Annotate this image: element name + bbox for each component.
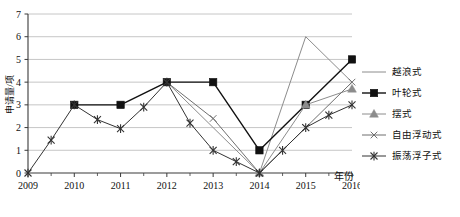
y-axis-title: 申请量/项: [3, 65, 16, 125]
legend-marker-triangle-icon: [361, 107, 387, 121]
x-tick-label: 2011: [111, 180, 131, 191]
y-tick-label: 0: [16, 168, 21, 179]
data-point-marker: [256, 147, 263, 154]
axes: [25, 14, 353, 177]
legend-marker-none-icon: [361, 65, 387, 79]
chart-figure: 01234567 2009201020112012201320142015201…: [0, 0, 460, 217]
x-tick-label: 2012: [157, 180, 177, 191]
data-point-marker: [233, 157, 240, 166]
data-point-marker: [348, 56, 355, 63]
legend-item[interactable]: 越浪式: [361, 61, 460, 82]
chart-plot-area: 01234567 2009201020112012201320142015201…: [0, 0, 360, 200]
y-tick-label: 1: [16, 145, 21, 156]
legend-item-label: 叶轮式: [392, 87, 422, 99]
x-axis-title: 年份: [334, 168, 354, 183]
data-point-marker: [370, 89, 377, 96]
chart-legend: 越浪式叶轮式摆式自由浮动式振荡浮子式: [361, 61, 460, 166]
data-series-layer: [25, 37, 357, 178]
y-tick-label: 7: [16, 9, 21, 20]
x-tick-label: 2015: [296, 180, 316, 191]
legend-item[interactable]: 叶轮式: [361, 82, 460, 103]
data-point-marker: [140, 103, 147, 112]
x-axis-tick-labels: 20092010201120122013201420152016: [18, 180, 360, 191]
y-tick-label: 4: [16, 77, 21, 88]
data-point-marker: [48, 136, 55, 145]
y-tick-label: 5: [16, 54, 21, 65]
data-point-marker: [187, 119, 194, 128]
x-tick-label: 2009: [18, 180, 38, 191]
y-axis-tick-labels: 01234567: [16, 9, 21, 179]
data-point-marker: [117, 124, 124, 133]
legend-marker-square-icon: [361, 86, 387, 100]
data-point-marker: [94, 115, 101, 124]
legend-marker-star-icon: [361, 149, 387, 163]
legend-item-label: 摆式: [392, 108, 412, 120]
x-tick-label: 2014: [249, 180, 269, 191]
data-point-marker: [210, 115, 217, 122]
data-point-marker: [325, 111, 332, 120]
y-tick-label: 3: [16, 99, 21, 110]
x-tick-label: 2013: [203, 180, 223, 191]
legend-item[interactable]: 自由浮动式: [361, 124, 460, 145]
legend-item-label: 越浪式: [392, 66, 422, 78]
data-point-marker: [370, 109, 379, 117]
legend-item-label: 振荡浮子式: [392, 150, 442, 162]
y-tick-label: 2: [16, 122, 21, 133]
legend-marker-x-icon: [361, 128, 387, 142]
legend-item[interactable]: 振荡浮子式: [361, 145, 460, 166]
x-tick-label: 2010: [64, 180, 84, 191]
legend-item[interactable]: 摆式: [361, 103, 460, 124]
y-tick-label: 6: [16, 31, 21, 42]
data-point-marker: [209, 78, 216, 85]
legend-item-label: 自由浮动式: [392, 129, 442, 141]
chart-svg: 01234567 2009201020112012201320142015201…: [0, 0, 360, 200]
data-point-marker: [117, 101, 124, 108]
